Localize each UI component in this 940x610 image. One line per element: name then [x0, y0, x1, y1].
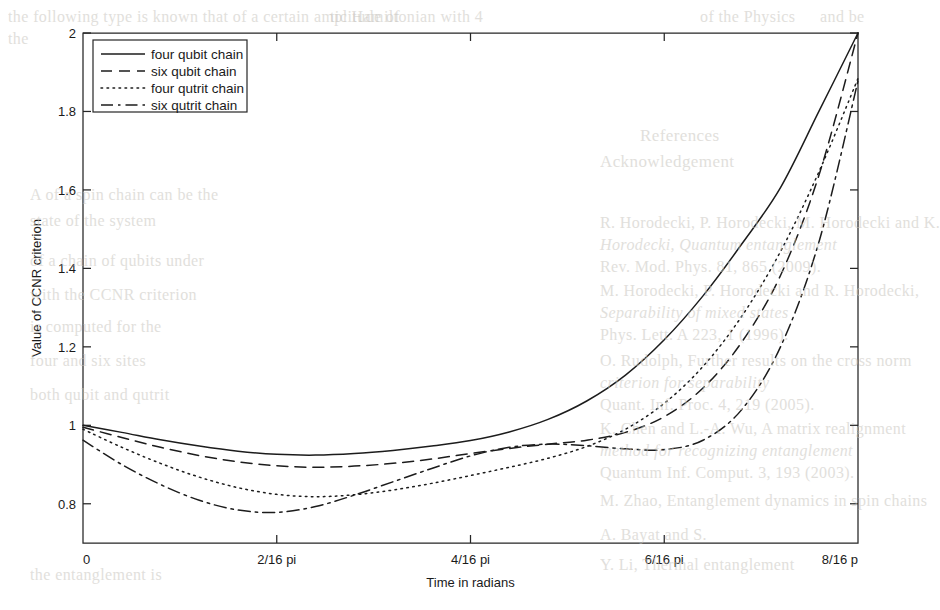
- x-tick-label: 2/16 pi: [257, 552, 296, 567]
- y-tick-label: 1.8: [58, 104, 76, 119]
- legend-label-four-qutrit-chain: four qutrit chain: [151, 81, 244, 96]
- y-tick-label: 1.6: [58, 183, 76, 198]
- x-tick-label: 8/16 p: [822, 552, 858, 567]
- x-tick-label: 6/16 pi: [645, 552, 684, 567]
- x-tick-label: 0: [83, 552, 90, 567]
- legend-label-six-qubit-chain: six qubit chain: [151, 64, 237, 79]
- x-tick-label: 4/16 pi: [451, 552, 490, 567]
- y-tick-label: 1: [69, 418, 76, 433]
- y-tick-label: 1.2: [58, 340, 76, 355]
- y-tick-label: 2: [69, 26, 76, 41]
- x-axis-ticks: 02/16 pi4/16 pi6/16 pi8/16 p: [83, 33, 858, 567]
- y-axis-title: Value of CCNR criterion: [29, 219, 44, 357]
- legend-label-four-qubit-chain: four qubit chain: [151, 47, 243, 62]
- series-line-six-qutrit-chain: [83, 81, 858, 513]
- legend-label-six-qutrit-chain: six qutrit chain: [151, 98, 237, 113]
- y-tick-label: 1.4: [58, 261, 76, 276]
- series-line-four-qutrit-chain: [83, 79, 858, 497]
- y-tick-label: 0.8: [58, 497, 76, 512]
- x-axis-title: Time in radians: [426, 575, 515, 590]
- chart-legend: four qubit chainsix qubit chainfour qutr…: [93, 40, 247, 113]
